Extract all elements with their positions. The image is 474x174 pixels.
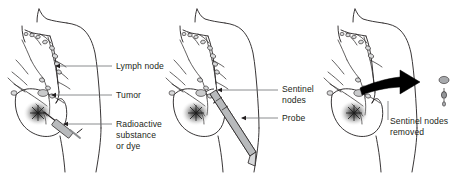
extracted-node-3: [442, 102, 445, 106]
tumor-shape: [196, 90, 206, 97]
label-radioactive-line2: substance: [116, 130, 156, 140]
neck-line-left: [195, 9, 197, 22]
panel-removal-illustration: [316, 0, 474, 174]
blotch-spokes: [188, 105, 204, 121]
sentinel-node-biopsy-figure: Lymph node Tumor Radioactive substance o…: [0, 0, 474, 174]
blotch-spokes: [346, 105, 362, 121]
removal-arrow-icon: [360, 70, 420, 95]
label-lymph-node: Lymph node: [116, 61, 164, 71]
arm-outline-lower: [96, 128, 101, 172]
neck-line-left: [353, 9, 355, 22]
label-radioactive-line3: or dye: [116, 141, 141, 151]
tumor-shape: [38, 90, 48, 97]
chin-jaw-line: [355, 9, 383, 23]
label-radioactive-line1: Radioactive: [116, 119, 162, 129]
label-tumor: Tumor: [116, 90, 141, 100]
label-probe: Probe: [282, 113, 305, 123]
syringe-barrel: [51, 119, 73, 138]
label-removed-line1: Sentinel nodes: [390, 116, 448, 126]
neck-line-left: [37, 9, 39, 22]
panel-injection: Lymph node Tumor Radioactive substance o…: [0, 0, 158, 174]
extracted-nodes: [439, 76, 449, 106]
label-sentinel-nodes-line2: nodes: [282, 95, 306, 105]
arm-outline-outer: [67, 23, 101, 128]
chin-jaw-line: [197, 9, 225, 23]
blotch-spokes: [30, 105, 46, 121]
syringe: [44, 112, 82, 138]
leader-lines: [52, 66, 112, 124]
chin-jaw-line: [39, 9, 67, 23]
torso-lower-line: [218, 136, 223, 172]
probe-body: [210, 90, 256, 156]
panel-removal: Sentinel nodes removed: [316, 0, 474, 174]
torso-lower-line: [60, 136, 65, 172]
syringe-flange: [77, 129, 82, 133]
label-sentinel-nodes-line1: Sentinel: [282, 84, 314, 94]
extracted-node-2: [441, 92, 446, 99]
torso-lower-line: [376, 136, 381, 172]
label-removed-line2: removed: [390, 127, 424, 137]
panel-probe: Sentinel nodes Probe: [158, 0, 316, 174]
extracted-node-1: [439, 76, 449, 83]
gamma-probe: [206, 89, 256, 166]
